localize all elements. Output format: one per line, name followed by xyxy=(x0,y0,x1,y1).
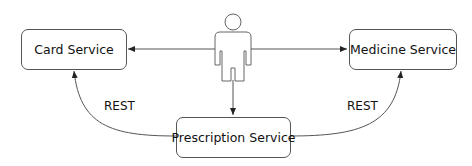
edge-prescription-to-medicine xyxy=(290,71,401,136)
card-service-node[interactable]: Card Service xyxy=(21,29,127,70)
prescription-service-label: Prescription Service xyxy=(172,130,296,145)
prescription-service-node[interactable]: Prescription Service xyxy=(176,117,291,158)
edge-label-rest-left: REST xyxy=(104,99,135,113)
person-icon xyxy=(215,14,251,81)
edge-label-rest-right: REST xyxy=(347,99,378,113)
card-service-label: Card Service xyxy=(34,42,113,57)
medicine-service-label: Medicine Service xyxy=(350,42,456,57)
medicine-service-node[interactable]: Medicine Service xyxy=(349,29,457,70)
